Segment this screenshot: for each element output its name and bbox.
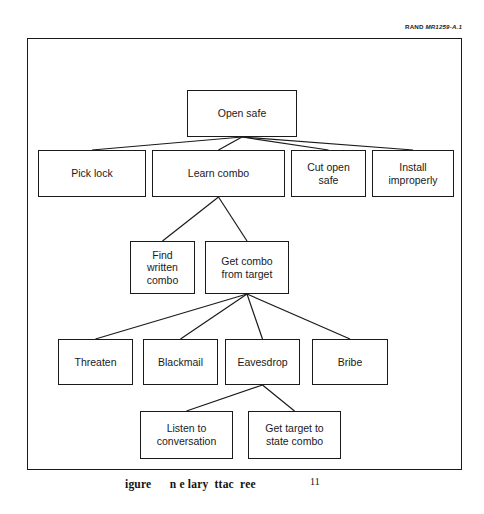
tree-node-cut-open-safe: Cut open safe: [291, 150, 366, 197]
tree-node-label: Eavesdrop: [237, 356, 287, 369]
tree-node-label: Find written combo: [147, 249, 179, 287]
figure-caption: igure n e lary ttac ree 11: [27, 476, 462, 496]
tree-node-get-target-state: Get target to state combo: [248, 411, 341, 459]
tree-node-open-safe: Open safe: [187, 90, 297, 137]
tree-node-label: Learn combo: [188, 167, 249, 180]
tree-node-listen-conversation: Listen to conversation: [140, 411, 233, 459]
tree-node-learn-combo: Learn combo: [152, 150, 285, 197]
figure-caption-text: igure n e lary ttac ree: [125, 478, 256, 490]
source-credit-brand: RAND: [405, 23, 423, 30]
tree-node-label: Open safe: [218, 107, 266, 120]
tree-node-threaten: Threaten: [58, 339, 133, 385]
tree-node-blackmail: Blackmail: [143, 339, 218, 385]
source-credit: RAND MR1259-A.1: [405, 23, 462, 30]
tree-node-find-written-combo: Find written combo: [130, 241, 195, 294]
tree-node-label: Get combo from target: [221, 255, 272, 280]
tree-node-label: Install improperly: [388, 161, 437, 186]
tree-node-pick-lock: Pick lock: [38, 150, 146, 197]
tree-node-label: Cut open safe: [307, 161, 350, 186]
figure-page: RAND MR1259-A.1 Open safePick lockLearn …: [0, 0, 484, 514]
tree-node-label: Threaten: [74, 356, 116, 369]
tree-node-get-combo-target: Get combo from target: [205, 241, 289, 294]
tree-node-bribe: Bribe: [312, 339, 388, 385]
tree-node-label: Pick lock: [71, 167, 112, 180]
tree-node-label: Listen to conversation: [157, 422, 217, 447]
tree-node-label: Get target to state combo: [265, 422, 323, 447]
tree-node-install-improperly: Install improperly: [372, 150, 454, 197]
tree-node-eavesdrop: Eavesdrop: [225, 339, 300, 385]
tree-node-label: Blackmail: [158, 356, 203, 369]
tree-node-label: Bribe: [338, 356, 363, 369]
figure-page-number: 11: [310, 476, 320, 487]
source-credit-docid: MR1259-A.1: [425, 23, 462, 30]
